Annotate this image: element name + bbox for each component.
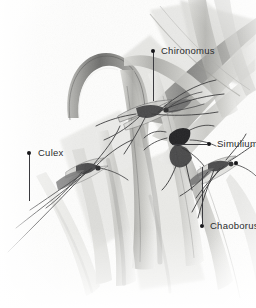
label-chaoborus: Chaoborus [210,221,256,231]
marker-dot-chaoborus [200,224,204,228]
marker-dot-chironomus [151,49,155,53]
leader-line-culex [29,154,30,201]
leader-line-chironomus [153,52,154,101]
label-simulium: Simulium [217,139,256,149]
marker-dot-culex [27,151,31,155]
label-culex: Culex [38,148,64,158]
marker-dot-chaoborus-body [234,161,238,165]
label-chironomus: Chironomus [161,46,215,56]
marker-dot-simulium [207,142,211,146]
leader-line-simulium [172,144,207,145]
illustration-figure: Chironomus Culex Simulium Chaoborus [0,0,256,308]
leader-line-chaoborus [202,167,203,224]
